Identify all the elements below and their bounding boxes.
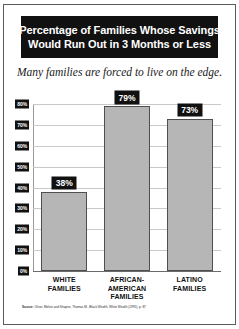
category-label-line: FAMILIES xyxy=(158,285,221,294)
y-axis-tick-label: 0% xyxy=(18,267,29,276)
chart-title-line-1: Percentage of Families Whose Savings xyxy=(19,23,220,37)
y-axis-tick-label: 50% xyxy=(15,162,29,171)
plot-area: 0%10%20%30%40%50%60%70%80%38%79%73% xyxy=(33,104,221,272)
y-axis-tick-label: 30% xyxy=(15,204,29,213)
y-axis-tick-label: 10% xyxy=(15,246,29,255)
bar: 38% xyxy=(41,192,87,271)
source-text: Oliver, Melvin and Shapiro, Thomas M., B… xyxy=(34,305,145,309)
y-axis-tick-label: 60% xyxy=(15,141,29,150)
category-label-line: FAMILIES xyxy=(33,285,96,294)
chart-title-banner: Percentage of Families Whose Savings Wou… xyxy=(21,16,218,58)
bar: 73% xyxy=(167,119,213,271)
y-axis-tick-label: 70% xyxy=(15,120,29,129)
source-label: Source: xyxy=(22,305,34,309)
x-axis-category-label: LATINOFAMILIES xyxy=(158,276,221,293)
category-label-line: FAMILIES xyxy=(96,293,159,302)
bar-value-label: 38% xyxy=(52,176,77,190)
y-axis-tick-label: 40% xyxy=(15,183,29,192)
chart-title-line-2: Would Run Out in 3 Months or Less xyxy=(28,37,211,51)
category-label-line: AMERICAN xyxy=(96,285,159,294)
category-label-line: AFRICAN- xyxy=(96,276,159,285)
x-axis-baseline xyxy=(33,271,221,272)
chart-figure: Percentage of Families Whose Savings Wou… xyxy=(0,0,239,329)
y-axis-tick-label: 20% xyxy=(15,225,29,234)
chart-subtitle: Many families are forced to live on the … xyxy=(0,66,239,78)
source-note: Source: Oliver, Melvin and Shapiro, Thom… xyxy=(22,305,222,309)
y-axis-tick-label: 80% xyxy=(15,100,29,109)
bar: 79% xyxy=(104,106,150,271)
category-label-line: WHITE xyxy=(33,276,96,285)
x-axis-category-label: AFRICAN-AMERICANFAMILIES xyxy=(96,276,159,302)
bar-value-label: 73% xyxy=(177,103,202,117)
x-axis-category-label: WHITEFAMILIES xyxy=(33,276,96,293)
category-label-line: LATINO xyxy=(158,276,221,285)
bar-value-label: 79% xyxy=(114,91,139,105)
